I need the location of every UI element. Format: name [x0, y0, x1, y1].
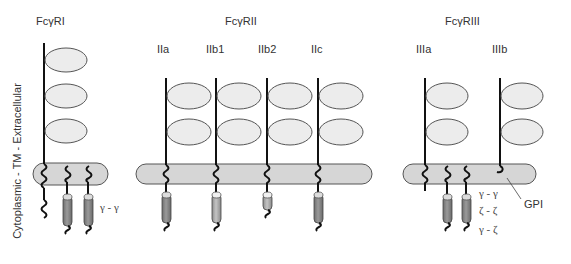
ig-domain	[426, 119, 468, 145]
ig-domain	[501, 83, 543, 109]
ig-domain	[268, 83, 312, 109]
isoform-label-iib2: IIb2	[258, 43, 276, 55]
ig-domain	[45, 84, 87, 108]
group-title-fcgrii: FcγRII	[225, 15, 257, 27]
receptor-fcgriii-iiia	[423, 78, 472, 231]
membranes	[33, 163, 536, 185]
ig-domain	[319, 83, 363, 109]
compartment-axis-label: Cytoplasmic - TM - Extracellular	[11, 66, 23, 256]
ig-domain	[426, 83, 468, 109]
ig-domain	[217, 83, 261, 109]
subunit-label-zeta-zeta: ζ - ζ	[479, 204, 497, 216]
ig-domain	[268, 119, 312, 145]
isoform-label-iic: IIc	[311, 43, 323, 55]
ig-domain	[501, 119, 543, 145]
ig-domain	[45, 48, 87, 72]
ig-domain	[167, 83, 211, 109]
ig-domain	[217, 119, 261, 145]
subunit-label-gamma-gamma: γ - γ	[479, 187, 498, 199]
ig-domain	[45, 119, 87, 143]
isoform-label-iib1: IIb1	[206, 43, 224, 55]
isoform-label-iiia: IIIa	[416, 43, 431, 55]
isoform-label-iia: IIa	[157, 43, 169, 55]
group-title-fcgri: FcγRI	[36, 15, 65, 27]
receptor-fcgrii-iia	[162, 78, 211, 231]
isoform-label-iiib: IIIb	[492, 43, 507, 55]
subunit-label-fcgri-gamma-gamma: γ - γ	[100, 201, 119, 213]
group-title-fcgriii: FcγRIII	[445, 15, 480, 27]
receptor-fcgri	[42, 43, 94, 234]
receptor-fcgrii-iib2	[263, 78, 312, 218]
receptor-fcgrii-iic	[314, 78, 363, 231]
gpi-anchor-label: GPI	[524, 198, 543, 210]
ig-domain	[167, 119, 211, 145]
membrane-fcgrii	[136, 164, 372, 184]
subunit-label-gamma-zeta: γ - ζ	[479, 223, 498, 235]
ig-domain	[319, 119, 363, 145]
fc-gamma-receptor-diagram: Cytoplasmic - TM - Extracellular FcγRI F…	[0, 0, 571, 264]
receptor-fcgrii-iib1	[212, 78, 261, 231]
